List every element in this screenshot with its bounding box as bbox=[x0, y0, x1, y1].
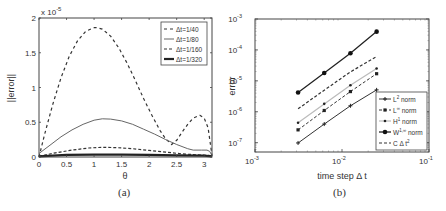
chart-b-series-4 bbox=[298, 32, 377, 93]
chart-a-y-tick-label: 1.5 bbox=[25, 49, 37, 58]
chart-a-series-4 bbox=[39, 155, 212, 157]
chart-b-curves bbox=[296, 29, 379, 145]
caption-b: (b) bbox=[333, 186, 346, 198]
chart-b-legend-entry: W1,∞ norm bbox=[393, 128, 423, 136]
chart-b-y-tick-label: 10-4 bbox=[228, 44, 242, 55]
chart-b-series-5 bbox=[298, 57, 377, 109]
figure: 00.511.522.5300.511.52 x 10-5 θ ||error|… bbox=[0, 0, 446, 211]
chart-a-legend: Δt=1/40Δt=1/80Δt=1/160Δt=1/320 bbox=[161, 22, 207, 65]
chart-a-x-label: θ bbox=[122, 171, 127, 181]
chart-a-x-tick-label: 1.5 bbox=[116, 160, 128, 169]
chart-b-x-tick-label: 10-1 bbox=[419, 155, 433, 166]
chart-b-x-tick-label: 10-3 bbox=[245, 155, 259, 166]
chart-a-legend-entry: Δt=1/80 bbox=[176, 36, 199, 43]
chart-a-y-label: ||error|| bbox=[6, 74, 16, 102]
chart-b-x-label: time step Δ t bbox=[317, 171, 367, 181]
chart-b-series-2 bbox=[298, 74, 377, 130]
chart-a-x-tick-label: 2.5 bbox=[171, 160, 183, 169]
chart-a-x-tick-label: 1 bbox=[92, 160, 97, 169]
chart-b-y-label: error bbox=[227, 76, 237, 95]
chart-a-x-tick-label: 3 bbox=[202, 160, 207, 169]
chart-a-series-2 bbox=[39, 119, 212, 156]
chart-a-x-tick-label: 0.5 bbox=[61, 160, 73, 169]
chart-a: 00.511.522.5300.511.52 x 10-5 θ ||error|… bbox=[6, 6, 212, 181]
chart-a-legend-entry: Δt=1/320 bbox=[176, 56, 203, 63]
chart-a-y-tick-label: 0.5 bbox=[25, 118, 37, 127]
chart-b-y-tick-label: 10-3 bbox=[228, 13, 242, 24]
chart-a-y-tick-label: 0 bbox=[32, 153, 37, 162]
chart-b-legend: L2 normL∞ normH1 normW1,∞ normC Δ t2 bbox=[376, 92, 427, 150]
chart-a-x-tick-label: 0 bbox=[37, 160, 42, 169]
chart-a-y-tick-label: 2 bbox=[32, 14, 37, 23]
chart-b: 10-310-210-110-710-610-510-410-3 time st… bbox=[227, 13, 433, 181]
chart-b-legend-entry: H1 norm bbox=[393, 117, 417, 125]
chart-b-legend-entry: L2 norm bbox=[393, 95, 416, 103]
chart-b-y-tick-label: 10-6 bbox=[228, 106, 242, 117]
chart-a-y-tick-label: 1 bbox=[32, 84, 37, 93]
chart-a-y-multiplier: x 10-5 bbox=[41, 6, 62, 17]
chart-a-x-tick-label: 2 bbox=[147, 160, 152, 169]
caption-a: (a) bbox=[118, 186, 130, 198]
chart-b-x-tick-label: 10-2 bbox=[332, 155, 346, 166]
chart-b-y-tick-label: 10-7 bbox=[228, 137, 242, 148]
chart-a-legend-entry: Δt=1/160 bbox=[176, 46, 203, 53]
chart-b-series-1 bbox=[298, 90, 377, 143]
chart-b-legend-entry: L∞ norm bbox=[393, 106, 416, 114]
chart-a-legend-entry: Δt=1/40 bbox=[176, 26, 199, 33]
